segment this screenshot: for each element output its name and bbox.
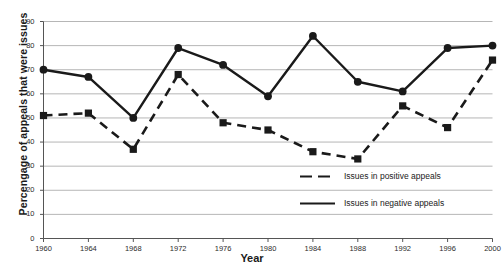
x-tick-label: 1980 [248, 245, 288, 253]
y-tick-label: 40 [13, 138, 35, 146]
data-point [309, 148, 316, 155]
y-tick-label: 70 [13, 66, 35, 74]
x-tick-label: 1972 [158, 245, 198, 253]
x-tick-label: 1992 [383, 245, 423, 253]
data-point [130, 146, 137, 153]
y-tick-label: 20 [13, 186, 35, 194]
series-line [44, 60, 493, 159]
data-point [489, 56, 496, 63]
series-line [44, 36, 493, 118]
legend-label: Issues in positive appeals [344, 171, 441, 181]
y-tick-label: 60 [13, 90, 35, 98]
y-tick-label: 30 [13, 162, 35, 170]
data-point [219, 61, 227, 69]
x-tick-label: 1976 [203, 245, 243, 253]
data-point [264, 92, 272, 100]
series-2 [40, 56, 496, 162]
y-tick-label: 10 [13, 210, 35, 218]
x-tick-label: 1984 [293, 245, 333, 253]
y-tick-label: 90 [13, 18, 35, 26]
x-tick-label: 2000 [473, 245, 504, 253]
data-point [354, 78, 362, 86]
data-point [399, 102, 406, 109]
data-point [444, 124, 451, 131]
data-point [444, 44, 452, 52]
legend-label: Issues in negative appeals [344, 198, 444, 208]
x-tick-label: 1960 [24, 245, 64, 253]
x-tick-label: 1964 [68, 245, 108, 253]
data-point [129, 114, 137, 122]
x-tick-label: 1988 [338, 245, 378, 253]
x-axis-title: Year [0, 252, 504, 264]
data-point [399, 88, 407, 96]
y-tick-label: 50 [13, 114, 35, 122]
data-point [309, 32, 317, 40]
y-tick-label: 0 [13, 235, 35, 243]
data-point [40, 66, 48, 74]
y-tick-label: 80 [13, 42, 35, 50]
data-point [220, 119, 227, 126]
x-tick-label: 1996 [428, 245, 468, 253]
data-point [354, 155, 361, 162]
line-chart: Percengage of appeals that were issues Y… [0, 0, 504, 274]
data-point [85, 110, 92, 117]
x-tick-label: 1968 [113, 245, 153, 253]
data-point [174, 44, 182, 52]
plot-area [0, 0, 504, 274]
data-point [489, 42, 497, 50]
data-point [85, 73, 93, 81]
data-point [264, 126, 271, 133]
data-point [175, 71, 182, 78]
data-point [40, 112, 47, 119]
